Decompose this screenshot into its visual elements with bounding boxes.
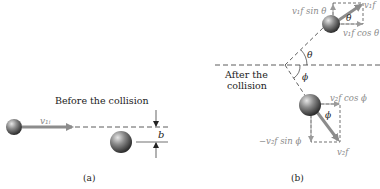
v2f-label: v₂f <box>337 147 350 157</box>
theta-inner-label: θ <box>346 13 352 23</box>
ball-1-before <box>6 119 22 135</box>
ball-1-path <box>285 25 326 65</box>
ball-2-before <box>110 131 132 153</box>
theta-label: θ <box>307 50 313 60</box>
ball-1-after <box>322 15 340 33</box>
before-collision-title: Before the collision <box>55 95 149 106</box>
phi-arc <box>294 65 300 78</box>
v1i-label: v₁ᵢ <box>40 116 51 126</box>
phi-label: ϕ <box>302 72 308 82</box>
panel-a: b Before the collision v₁ᵢ (a) <box>6 95 170 183</box>
v2f-sin-label: −v₂f sin ϕ <box>259 136 301 146</box>
v1f-label: v₁f <box>364 0 377 10</box>
v1f-sin-label: v₁f sin θ <box>292 6 326 16</box>
v1f-cos-label: v₁f cos θ <box>343 28 379 38</box>
after-collision-title-line1: After the <box>224 69 268 80</box>
phi-inner-label: ϕ <box>325 110 331 120</box>
v2f-cos-label: v₂f cos ϕ <box>330 93 367 103</box>
panel-b: θ ϕ θ v₁f v₁f sin θ v₁f cos θ ϕ v₂f cos … <box>215 0 380 183</box>
ball-2-after <box>299 94 321 116</box>
after-collision-title-line2: collision <box>227 80 267 91</box>
caption-a: (a) <box>83 173 95 183</box>
caption-b: (b) <box>291 173 304 183</box>
collision-diagram: b Before the collision v₁ᵢ (a) θ ϕ θ v₁f… <box>0 0 380 189</box>
impact-parameter-label: b <box>158 129 164 140</box>
